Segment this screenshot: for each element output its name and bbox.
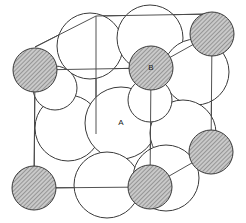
atom-b-3 [12, 166, 56, 210]
atom-b-2 [190, 12, 234, 56]
crystal-structure-figure: AB [0, 0, 246, 223]
atom-b-1 [129, 46, 173, 90]
atom-b-5 [189, 130, 233, 174]
crystal-structure-diagram: AB [0, 0, 246, 223]
atom-b-0 [13, 48, 57, 92]
atom-b-4 [128, 165, 172, 209]
